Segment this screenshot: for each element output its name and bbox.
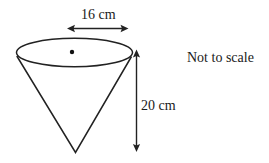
- height-label: 20 cm: [141, 99, 176, 113]
- diameter-arrow: [67, 25, 129, 32]
- cone-slant-sides: [17, 56, 132, 153]
- not-to-scale-note: Not to scale: [187, 51, 254, 65]
- center-point-dot: [70, 50, 74, 54]
- cone-top-ellipse: [17, 38, 133, 66]
- cone-figure: 16 cm 20 cm Not to scale: [0, 0, 269, 163]
- cone-diagram-svg: [0, 0, 269, 163]
- height-arrow: [133, 50, 140, 153]
- diameter-label: 16 cm: [81, 8, 116, 22]
